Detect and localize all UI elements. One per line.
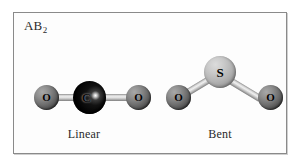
atom-oxygen-bent-left: O <box>166 85 191 110</box>
atom-oxygen-right: O <box>126 85 151 110</box>
atom-oxygen-bent-right: O <box>258 85 283 110</box>
formula-subscript: 2 <box>43 25 48 35</box>
atom-label-oxygen-right: O <box>134 92 143 103</box>
formula-base: AB <box>24 18 42 33</box>
caption-linear: Linear <box>20 127 148 142</box>
caption-bent: Bent <box>154 127 286 142</box>
atom-oxygen-left: O <box>34 85 59 110</box>
molecule-bent-stage: S O O <box>154 35 286 127</box>
molecule-bent: S O O Bent <box>154 35 286 153</box>
atom-label-carbon-center: C <box>82 91 91 104</box>
atom-sulfur-center: S <box>204 56 236 88</box>
atom-label-oxygen-bent-left: O <box>174 92 183 103</box>
atom-carbon-center: C <box>73 81 106 114</box>
atom-label-oxygen-left: O <box>42 92 51 103</box>
figure-panel: AB2 O C O <box>13 12 287 154</box>
molecular-geometry-figure: AB2 O C O <box>0 0 301 166</box>
molecule-linear: O C O Linear <box>20 35 148 153</box>
molecule-linear-stage: O C O <box>20 35 148 127</box>
atom-label-oxygen-bent-right: O <box>266 92 275 103</box>
formula-label-ab2: AB2 <box>24 18 47 35</box>
atom-label-sulfur-center: S <box>216 66 223 79</box>
